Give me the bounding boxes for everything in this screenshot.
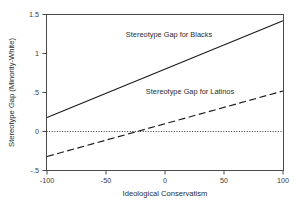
line-chart: 1.5 1 .5 0 -.5 -100 -50 0 50 100 Ideolog… (0, 0, 296, 202)
x-tick-label-neg50: -50 (101, 176, 111, 185)
chart-figure: 1.5 1 .5 0 -.5 -100 -50 0 50 100 Ideolog… (0, 0, 296, 202)
x-tick-label-0: 0 (163, 176, 167, 185)
x-tick-label-100: 100 (277, 176, 289, 185)
x-axis-ticks (47, 171, 283, 175)
x-tick-label-50: 50 (220, 176, 228, 185)
series-line-latinos (47, 91, 283, 157)
y-tick-label-1: 1 (35, 49, 39, 58)
y-axis-title: Stereotype Gap (Minority-White) (7, 38, 16, 147)
y-axis-ticks (43, 15, 47, 171)
y-tick-label-0: 0 (35, 127, 39, 136)
y-tick-label-neg0.5: -.5 (31, 166, 39, 175)
annotation-blacks: Stereotype Gap for Blacks (126, 30, 213, 39)
x-tick-label-neg100: -100 (40, 176, 54, 185)
y-tick-label-0.5: .5 (33, 88, 39, 97)
annotation-latinos: Stereotype Gap for Latinos (146, 87, 235, 96)
y-tick-label-1.5: 1.5 (29, 10, 39, 19)
x-axis-title: Ideological Conservatism (123, 189, 208, 198)
